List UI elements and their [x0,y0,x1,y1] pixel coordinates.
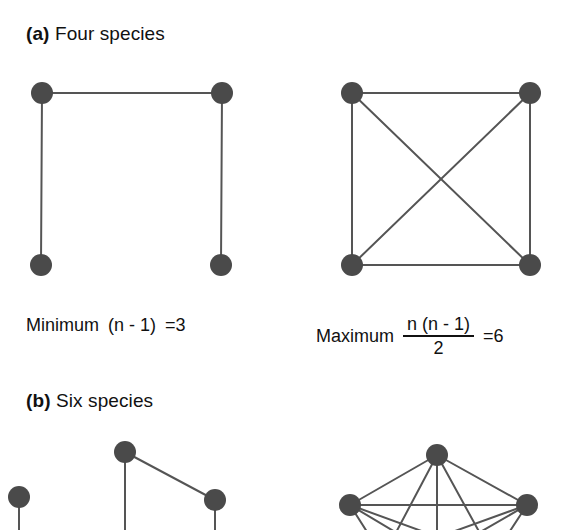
graph-b-maximum [288,425,576,530]
graph-node [341,82,363,104]
panel-a-tag: (a) [26,23,50,44]
graph-edge [221,93,222,265]
graph-b-minimum-nodes [8,441,226,530]
graph-node [204,489,226,511]
graph-edge [383,455,437,530]
caption-minimum-label: Minimum [26,315,99,336]
graph-node [341,254,363,276]
graph-a-minimum-edges [41,93,222,265]
graph-node [31,82,53,104]
graph-b-maximum-svg [288,425,576,530]
graph-a-minimum-nodes [30,82,233,276]
caption-maximum-numerator: n (n - 1) [403,315,474,335]
graph-b-minimum-edges [19,452,215,530]
panel-b-title: Six species [56,390,153,411]
caption-minimum-value: 3 [176,315,186,336]
panel-b-heading: (b) Six species [26,390,153,412]
panel-b-tag: (b) [26,390,51,411]
graph-node [339,494,361,516]
panel-a-heading: (a) Four species [26,23,165,45]
caption-maximum-equals: = [483,326,494,347]
graph-node [211,82,233,104]
graph-node [30,254,52,276]
graph-edge [41,93,42,265]
caption-maximum-denominator: 2 [430,337,448,357]
graph-node [114,441,136,463]
graph-b-minimum [0,425,288,530]
figure-root: (a) Four species Minimum (n - 1) = 3 Max… [0,0,576,530]
graph-node [519,254,541,276]
graph-b-minimum-svg [0,425,288,530]
graph-node [8,486,30,508]
graph-node [519,82,541,104]
graph-a-maximum [288,60,576,300]
caption-maximum-fraction: n (n - 1) 2 [403,315,474,357]
caption-maximum-value: 6 [494,326,504,347]
panel-a-title: Four species [55,23,165,44]
graph-edge [125,452,215,500]
graph-node [210,254,232,276]
graph-a-maximum-edges [352,93,530,265]
graph-b-maximum-edges [350,455,527,530]
graph-a-minimum [0,60,288,300]
graph-node [516,494,538,516]
graph-edge [437,455,493,530]
caption-maximum-label: Maximum [316,326,394,347]
caption-minimum-equals: = [165,315,176,336]
graph-a-minimum-svg [0,60,288,300]
graph-node [426,444,448,466]
graph-a-maximum-svg [288,60,576,300]
caption-minimum-formula: (n - 1) [108,315,156,336]
caption-maximum: Maximum n (n - 1) 2 = 6 [316,315,504,357]
caption-minimum: Minimum (n - 1) = 3 [26,315,186,336]
